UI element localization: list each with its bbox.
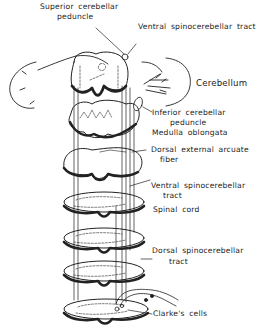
spinal-cord-section-1 xyxy=(64,192,144,217)
label-spinal-cord: Spinal cord xyxy=(153,205,200,214)
label-dorsal-external-arcuate-fiber-line2: fiber xyxy=(160,155,178,164)
vertical-tract-lines xyxy=(74,86,134,304)
spinocerebellar-pathways-diagram: Superior cerebellar peduncle Ventral spi… xyxy=(0,0,279,331)
cerebellum-left-hemisphere xyxy=(10,55,108,108)
label-cerebellum: Cerebellum xyxy=(196,79,247,88)
label-ventral-spinocerebellar-tract-mid-line2: tract xyxy=(163,191,182,200)
cerebellum-right-hemisphere xyxy=(142,58,190,106)
label-superior-cerebellar-peduncle-line1: Superior cerebellar xyxy=(40,2,118,11)
label-ventral-spinocerebellar-tract-mid-line1: Ventral spinocerebellar xyxy=(151,181,245,190)
label-superior-cerebellar-peduncle-line2: peduncle xyxy=(57,12,94,21)
label-dorsal-spinocerebellar-tract-line2: tract xyxy=(169,257,188,266)
label-inferior-cerebellar-peduncle-line2: peduncle xyxy=(170,118,207,127)
label-clarkes-cells: Clarke's cells xyxy=(153,309,207,318)
label-dorsal-external-arcuate-fiber-line1: Dorsal external arcuate xyxy=(151,145,249,154)
spinal-cord-section-2 xyxy=(64,228,144,253)
spinal-cord-section-3 xyxy=(64,261,144,286)
superior-peduncle-marker xyxy=(122,54,128,60)
label-dorsal-spinocerebellar-tract-line1: Dorsal spinocerebellar xyxy=(152,246,243,255)
upper-brainstem-section xyxy=(71,52,128,95)
label-ventral-spinocerebellar-tract-top: Ventral spinocerebellar tract xyxy=(138,22,256,31)
label-medulla-oblongata: Medulla oblongata xyxy=(152,128,228,137)
label-inferior-cerebellar-peduncle-line1: Inferior cerebellar xyxy=(152,108,226,117)
diagram-drawing xyxy=(0,0,279,331)
medulla-section xyxy=(69,100,139,137)
